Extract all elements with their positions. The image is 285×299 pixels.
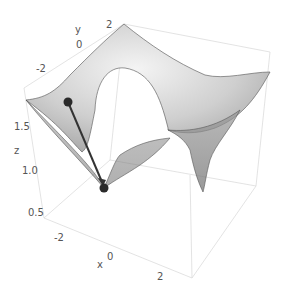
y-axis-label: y [75, 24, 81, 35]
end-point [100, 184, 109, 193]
x-axis-label: x [97, 259, 103, 270]
z-tick: 1.0 [22, 165, 38, 176]
surface-plot: y 2 0 -2 z 1.5 1.0 0.5 x -2 0 2 [0, 0, 285, 299]
z-axis-label: z [14, 145, 19, 156]
y-tick: -2 [36, 63, 46, 74]
x-tick: -2 [54, 232, 64, 243]
x-tick: 0 [107, 251, 113, 262]
start-point [64, 98, 73, 107]
z-tick: 1.5 [14, 121, 30, 132]
y-tick: 2 [106, 19, 112, 30]
z-tick: 0.5 [28, 207, 44, 218]
y-tick: 0 [76, 39, 82, 50]
x-tick: 2 [157, 271, 163, 282]
surface-sheet [26, 24, 270, 152]
